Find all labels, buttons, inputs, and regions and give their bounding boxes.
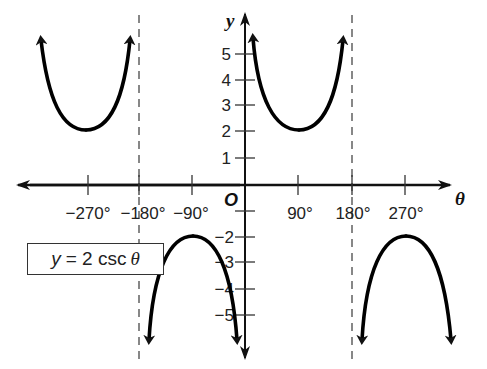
y-tick-label: −5 xyxy=(215,306,234,325)
curve-branch-4 xyxy=(362,236,406,340)
y-tick-label: 2 xyxy=(222,122,231,141)
curve-branch-3 xyxy=(299,40,343,130)
curve-branch-1-left xyxy=(41,40,86,130)
csc-graph: −270° −180° −90° 90° 180° 270° 1 2 3 4 5… xyxy=(0,0,487,369)
curve-branch-1 xyxy=(86,40,130,130)
x-tick-label: −270° xyxy=(65,204,110,223)
x-tick-label: 90° xyxy=(287,204,313,223)
x-axis-label: θ xyxy=(455,188,465,209)
function-legend: y = 2 csc θ xyxy=(27,243,164,275)
x-tick-label: 180° xyxy=(335,204,370,223)
y-tick-label: 3 xyxy=(222,96,231,115)
y-tick-label: 5 xyxy=(222,45,231,64)
legend-y: y xyxy=(51,248,61,270)
origin-label: O xyxy=(224,190,238,210)
curve-branch-3-left xyxy=(253,38,299,130)
y-axis-label: y xyxy=(224,10,235,31)
y-tick-label: 1 xyxy=(222,149,231,168)
y-tick-label: 4 xyxy=(222,71,231,90)
x-tick-label: −90° xyxy=(173,204,209,223)
legend-theta: θ xyxy=(130,248,139,270)
x-tick-label: −180° xyxy=(120,204,165,223)
curve-branch-4-right xyxy=(406,236,451,340)
legend-expression: = 2 csc xyxy=(66,248,127,270)
y-tick-label: −2 xyxy=(215,228,234,247)
x-tick-label: 270° xyxy=(388,204,423,223)
